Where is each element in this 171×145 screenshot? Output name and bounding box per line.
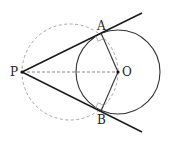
point-o [116,70,119,73]
tangent-line-pa [22,13,142,72]
label-p: P [10,65,18,79]
label-b: B [97,113,106,127]
point-p [20,70,23,73]
geometry-diagram: P O A B [0,0,171,145]
label-a: A [96,19,106,33]
tangent-line-pb [22,72,142,132]
label-o: O [122,65,132,79]
